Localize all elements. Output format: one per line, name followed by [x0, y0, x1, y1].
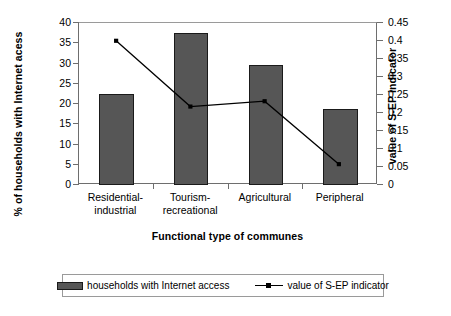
y-right-tick [377, 148, 383, 149]
y-right-tick-label: 0 [388, 179, 420, 189]
y-right-tick [377, 22, 383, 23]
y-axis-title-left: % of households with Internet acess [12, 8, 28, 240]
x-axis-tick [153, 184, 154, 189]
line-marker-0 [114, 39, 118, 43]
legend-line-label: value of S-EP indicator [287, 280, 389, 291]
y-right-tick [377, 40, 383, 41]
y-right-tick [377, 184, 383, 185]
y-left-tick [73, 144, 79, 145]
chart-figure: % of households with Internet acess valu… [0, 0, 451, 316]
legend-item-line: value of S-EP indicator [255, 280, 389, 291]
y-left-tick [73, 103, 79, 104]
line-marker-2 [263, 99, 267, 103]
y-right-tick [377, 58, 383, 59]
x-axis-category-label-2: Agricultural [227, 191, 303, 204]
y-left-tick [73, 123, 79, 124]
y-right-tick [377, 166, 383, 167]
y-left-tick-label: 0 [43, 179, 71, 189]
y-right-tick-label: 0.3 [388, 71, 420, 81]
y-right-tick-label: 0.1 [388, 143, 420, 153]
legend-line-swatch-icon [255, 281, 283, 290]
x-axis-tick [228, 184, 229, 189]
y-left-tick [73, 184, 79, 185]
legend-bar-swatch-icon [57, 282, 83, 290]
y-left-tick [73, 83, 79, 84]
y-right-tick [377, 112, 383, 113]
x-axis-title: Functional type of communes [78, 230, 377, 242]
plot-area [78, 22, 377, 184]
y-right-tick-label: 0.35 [388, 53, 420, 63]
y-left-tick-label: 5 [43, 159, 71, 169]
x-axis-category-label-1: Tourism-recreational [152, 191, 228, 216]
y-right-tick-label: 0.15 [388, 125, 420, 135]
y-left-tick-label: 35 [43, 37, 71, 47]
y-right-tick [377, 94, 383, 95]
y-right-tick-label: 0.4 [388, 35, 420, 45]
chart-legend: households with Internet access value of… [62, 274, 384, 297]
y-right-tick [377, 76, 383, 77]
y-left-tick-label: 30 [43, 58, 71, 68]
y-left-tick [73, 22, 79, 23]
y-left-tick-label: 15 [43, 118, 71, 128]
line-marker-3 [337, 162, 341, 166]
y-left-tick-label: 20 [43, 98, 71, 108]
y-left-tick-label: 25 [43, 78, 71, 88]
y-left-tick-label: 10 [43, 139, 71, 149]
y-left-tick [73, 164, 79, 165]
x-axis-tick [302, 184, 303, 189]
y-left-tick [73, 42, 79, 43]
line-marker-1 [188, 104, 192, 108]
x-axis-category-label-3: Peripheral [302, 191, 378, 204]
y-right-tick-label: 0.05 [388, 161, 420, 171]
y-right-tick-label: 0.45 [388, 17, 420, 27]
y-right-tick-label: 0.25 [388, 89, 420, 99]
legend-bar-label: households with Internet access [87, 280, 229, 291]
y-right-tick [377, 130, 383, 131]
x-axis-category-label-0: Residential-industrial [77, 191, 153, 216]
legend-item-bar: households with Internet access [57, 280, 229, 291]
line-series-layer [79, 23, 376, 183]
y-left-tick [73, 63, 79, 64]
y-right-tick-label: 0.2 [388, 107, 420, 117]
y-left-tick-label: 40 [43, 17, 71, 27]
